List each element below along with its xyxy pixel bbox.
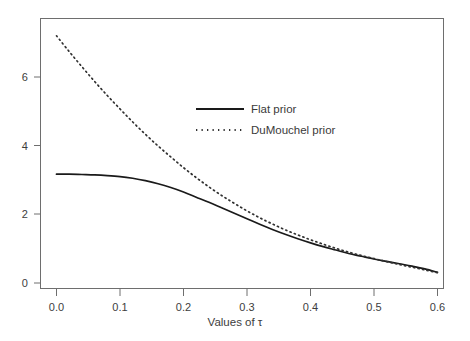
x-tick-label-0.6: 0.6 [430,301,446,313]
chart-legend: Flat prior DuMouchel prior [196,98,346,140]
plot-area [0,0,470,341]
x-tick-label-0.1: 0.1 [112,301,128,313]
series-line-dumouchel-prior [57,36,438,273]
x-axis-ticks [57,289,438,297]
series-line-flat-prior [57,174,438,272]
y-tick-label-0: 0 [10,277,28,289]
legend-label-dumouchel-prior: DuMouchel prior [251,124,335,136]
legend-key-dotted-line-icon [196,124,244,136]
x-tick-label-0.4: 0.4 [303,301,319,313]
x-tick-label-0.5: 0.5 [366,301,382,313]
y-tick-label-4: 4 [10,140,28,152]
x-tick-label-0.3: 0.3 [239,301,255,313]
x-tick-label-0.2: 0.2 [176,301,192,313]
series-lines [57,36,438,273]
x-tick-label-0.0: 0.0 [49,301,65,313]
y-tick-label-2: 2 [10,208,28,220]
chart-figure: 0 2 4 6 0.0 0.1 0.2 0.3 0.4 0.5 0.6 Valu… [0,0,470,341]
legend-key-solid-line-icon [196,103,244,115]
x-axis-title: Values of τ [0,316,470,328]
plot-frame [41,19,444,289]
legend-label-flat-prior: Flat prior [251,103,296,115]
y-axis-ticks [34,77,41,283]
legend-item-flat-prior: Flat prior [196,98,346,119]
legend-item-dumouchel-prior: DuMouchel prior [196,119,346,140]
y-tick-label-6: 6 [10,71,28,83]
